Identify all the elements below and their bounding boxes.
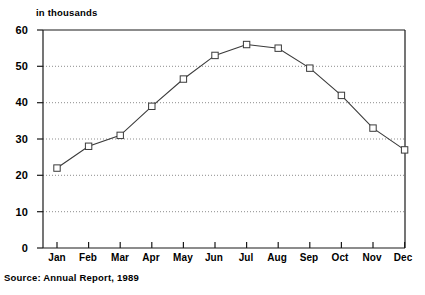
line-chart-figure: in thousands 60 50 40 30 20 10 0 Jan Feb…	[0, 0, 425, 295]
data-point-feb	[85, 143, 91, 149]
data-line	[57, 45, 405, 169]
y-axis-ticks	[37, 30, 43, 248]
data-marker-group	[54, 41, 408, 171]
plot-area	[0, 0, 425, 295]
data-point-oct	[338, 92, 344, 98]
data-point-nov	[370, 125, 376, 131]
data-point-jun	[212, 52, 218, 58]
data-point-aug	[275, 45, 281, 51]
x-axis-ticks	[57, 242, 405, 248]
data-point-jul	[243, 41, 249, 47]
data-point-sep	[307, 65, 313, 71]
data-point-jan	[54, 165, 60, 171]
gridlines	[43, 66, 405, 211]
data-point-may	[180, 76, 186, 82]
data-point-mar	[117, 132, 123, 138]
source-note: Source: Annual Report, 1989	[4, 272, 139, 283]
data-point-apr	[149, 103, 155, 109]
data-point-dec	[401, 147, 407, 153]
